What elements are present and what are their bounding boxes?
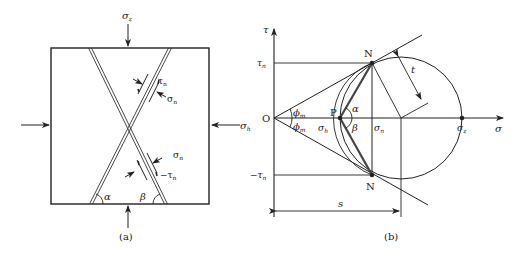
- point-sigma-z: [460, 116, 465, 121]
- angle-beta-arc: [153, 194, 160, 204]
- tau-n-label: τn: [257, 58, 266, 69]
- neg-tau-n-label: −τn: [250, 170, 267, 181]
- sigma-n-label-b: σn: [374, 123, 384, 134]
- point-n-top-label: N: [364, 48, 373, 59]
- radius-line: [372, 63, 401, 118]
- lower-normal-label: σn: [173, 150, 183, 161]
- caption-a: (a): [119, 231, 133, 242]
- panel-a: σz σh τn σn σn −τn α β (a): [21, 10, 251, 242]
- angle-beta-label: β: [139, 191, 146, 202]
- tau-axis-label: τ: [263, 24, 269, 35]
- beta-label-b: β: [351, 122, 358, 133]
- point-n-bottom: [370, 173, 375, 178]
- shear-band-right: [90, 48, 172, 204]
- t-extension: [401, 103, 428, 118]
- top-load-label: σz: [122, 10, 133, 22]
- phi-bottom-label: ϕm: [293, 121, 306, 133]
- sigma-axis-label: σ: [495, 123, 503, 134]
- point-p-label: P: [330, 107, 337, 118]
- sigma-z-label-b: σz: [457, 123, 467, 134]
- sigma-h-label-b: σh: [318, 123, 328, 134]
- alpha-label-b: α: [352, 103, 359, 114]
- origin-label: O: [262, 113, 270, 124]
- point-n-bottom-label: N: [366, 181, 375, 192]
- phi-bottom-arc: [290, 118, 292, 127]
- phi-top-arc: [290, 109, 292, 118]
- panel-b: τ σ O τn −τn t s N: [250, 24, 503, 242]
- lower-shear-label: −τn: [160, 170, 177, 181]
- angle-alpha-label: α: [104, 191, 111, 202]
- caption-b: (b): [384, 231, 398, 242]
- point-n-top: [370, 61, 375, 66]
- right-load-label: σh: [240, 120, 251, 132]
- upper-normal-label: σn: [167, 94, 177, 105]
- point-p: [338, 116, 343, 121]
- t-dimension: [398, 56, 421, 99]
- t-label: t: [411, 64, 416, 75]
- s-label: s: [338, 198, 343, 209]
- shear-band-left: [89, 48, 168, 204]
- figure: σz σh τn σn σn −τn α β (a): [0, 0, 522, 253]
- upper-shear-label: τn: [158, 76, 167, 87]
- lower-stress-element: [125, 153, 162, 180]
- phi-top-label: ϕm: [293, 107, 306, 119]
